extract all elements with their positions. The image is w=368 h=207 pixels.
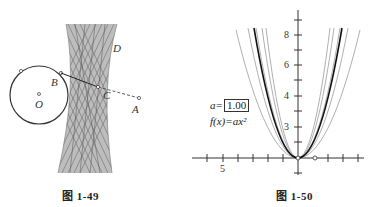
caption-1-50: 图 1-50 [276,187,313,203]
label-o: O [35,99,43,110]
point-o [38,93,41,96]
figure-1-49: D B C O A 图 1-49 [0,0,184,207]
y-tick-8: 8 [284,30,289,40]
figure-1-50: 8 6 4 3 5 a=1.00 f(x)=ax² 图 1-50 [184,0,368,207]
drag-point[interactable] [313,156,317,160]
parameter-a: a=1.00 [210,99,249,112]
hyperboloid-diagram [0,0,184,207]
point-a [137,96,140,99]
x-tick-5: 5 [220,164,225,174]
y-tick-3: 3 [284,122,289,132]
parameter-value[interactable]: 1.00 [224,99,249,112]
label-a: A [132,104,139,115]
label-b: B [51,77,58,88]
y-tick-6: 6 [284,60,289,70]
point-on-circle [19,69,22,72]
caption-1-49: 图 1-49 [62,187,99,203]
point-c [96,85,99,88]
parameter-label: a= [210,99,223,111]
y-tick-4: 4 [284,91,289,101]
label-c: C [103,90,110,101]
label-d: D [113,43,121,54]
origin-point [296,156,300,160]
function-label: f(x)=ax² [210,116,246,127]
